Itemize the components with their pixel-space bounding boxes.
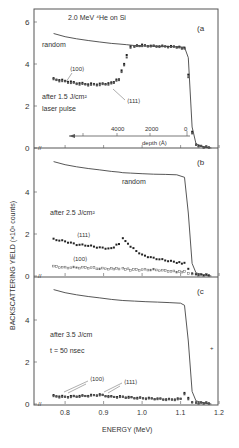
panel-b-111-label: ⟨111⟩: [77, 232, 90, 238]
panel-c-100-label: ⟨100⟩: [90, 376, 104, 382]
y-tick-label: 6: [25, 18, 30, 27]
x-tick-label: 1.0: [137, 409, 147, 416]
depth-tick-2000: 2000: [145, 126, 159, 132]
panel-c-tag: (c: [197, 287, 204, 296]
panel-a-condition: after 1.5 J/cm²: [42, 93, 87, 100]
panel-a-111-label: ⟨111⟩: [127, 98, 140, 104]
panel-b-random-label: random: [122, 178, 146, 185]
svg-text://: //: [38, 145, 42, 151]
panel-c-condition: after 3.5 J/cm: [50, 331, 93, 338]
x-axis-label: ENERGY (MeV): [102, 426, 152, 434]
y-tick-label: 2: [25, 230, 30, 239]
y-axis-label: BACKSCATTERING YIELD (×10³ counts): [9, 201, 17, 330]
random-curve: [54, 34, 212, 149]
stray-mark: +: [210, 345, 214, 351]
x-tick-label: 0.9: [99, 409, 109, 416]
panel-c-111-pointer: [104, 383, 122, 392]
depth-axis-label: depth (Å): [142, 140, 167, 146]
panel-b-condition: after 2.5 J/cm²: [50, 209, 95, 216]
x-tick-label: 0.8: [60, 409, 70, 416]
panel-c-time: t = 50 nsec: [50, 347, 85, 354]
panel-c-100-pointer: [64, 381, 88, 392]
svg-text://: //: [38, 401, 42, 407]
y-tick-label: 4: [25, 60, 30, 69]
depth-axis: 4000 2000 0 depth (Å): [69, 126, 190, 146]
panel-a-title: 2.0 MeV ⁴He on Si: [68, 14, 126, 21]
y-tick-label: 0: [25, 272, 30, 281]
y-tick-label: 0: [25, 400, 30, 409]
y-tick-label: 0: [25, 144, 30, 153]
y-tick-label: 2: [25, 102, 30, 111]
y-tick-label: 4: [25, 316, 30, 325]
panel-b-100-label: ⟨100⟩: [73, 256, 87, 262]
x-tick-label: 1.2: [214, 409, 224, 416]
panel-b-tag: (b: [197, 158, 205, 167]
x-tick-label: 1.1: [176, 409, 186, 416]
rbs-spectra-figure: BACKSCATTERING YIELD (×10³ counts) 0246/…: [0, 0, 239, 448]
y-tick-label: 2: [25, 358, 30, 367]
depth-tick-0: 0: [184, 126, 188, 132]
panel-a-100-label: ⟨100⟩: [70, 66, 84, 72]
depth-tick-4000: 4000: [111, 126, 125, 132]
plot-frame: [34, 9, 218, 405]
panel-c-111-label: ⟨111⟩: [124, 379, 137, 385]
panel-a-random-label: random: [42, 41, 66, 48]
panel-a-laser-pulse: laser pulse: [42, 105, 76, 113]
y-tick-label: 4: [25, 188, 30, 197]
x-axis-ticks: 0.80.91.01.11.2: [60, 409, 224, 416]
panel-a-111-pointer: [113, 89, 125, 100]
panel-a-tag: (a: [197, 24, 205, 33]
svg-text://: //: [38, 273, 42, 279]
